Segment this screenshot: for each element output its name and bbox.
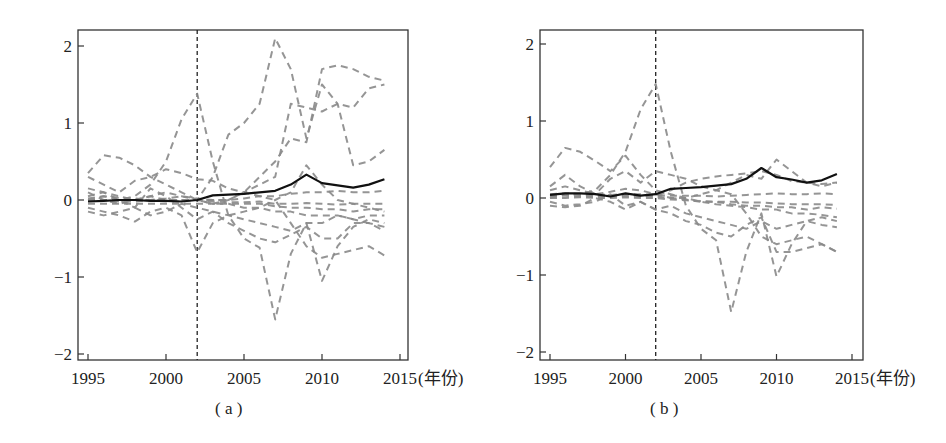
x-axis-unit-label: (年份)	[418, 369, 463, 388]
x-tick-label: 2005	[227, 369, 261, 388]
y-tick-label: −2	[54, 345, 72, 364]
x-tick-label: 2015	[383, 369, 417, 388]
caption-b: ( b )	[650, 399, 678, 419]
control-series-line	[550, 194, 837, 252]
control-series-line	[550, 186, 837, 217]
y-tick-label: 2	[526, 35, 535, 54]
chart-a: −2−101219952000200520102015(年份)	[0, 0, 470, 443]
panel-a: −2−101219952000200520102015(年份) ( a )	[0, 0, 470, 443]
plot-frame	[78, 30, 408, 360]
x-tick-label: 2010	[760, 369, 794, 388]
control-series-line	[88, 204, 384, 231]
x-tick-label: 2000	[149, 369, 183, 388]
y-tick-label: 0	[526, 189, 535, 208]
control-series-line	[550, 148, 837, 198]
x-tick-label: 2010	[305, 369, 339, 388]
x-axis-unit-label: (年份)	[870, 369, 915, 388]
treated-series-line	[88, 175, 384, 202]
control-series-line	[550, 84, 837, 312]
y-tick-label: 1	[526, 112, 535, 131]
y-tick-label: −1	[516, 266, 534, 285]
x-tick-label: 2005	[684, 369, 718, 388]
caption-a: ( a )	[215, 399, 242, 419]
control-series-line	[550, 198, 837, 229]
control-series-line	[88, 38, 384, 204]
chart-b: −2−101219952000200520102015(年份)	[470, 0, 946, 443]
x-tick-label: 1995	[71, 369, 105, 388]
y-tick-label: −2	[516, 343, 534, 362]
y-tick-label: −1	[54, 268, 72, 287]
y-tick-label: 0	[64, 191, 73, 210]
y-tick-label: 1	[64, 114, 73, 133]
x-tick-label: 1995	[533, 369, 567, 388]
x-tick-label: 2015	[835, 369, 869, 388]
x-tick-label: 2000	[609, 369, 643, 388]
y-tick-label: 2	[64, 37, 73, 56]
panel-b: −2−101219952000200520102015(年份) ( b )	[470, 0, 946, 443]
